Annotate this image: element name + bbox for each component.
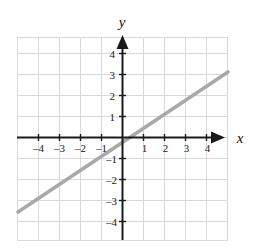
- y-tick-label-1: 1: [110, 111, 116, 123]
- y-tick-label-minus3: –3: [105, 195, 118, 207]
- x-tick-label-3: 3: [184, 142, 190, 154]
- coordinate-plane-figure: –4 –3 –2 –1 1 2 3 4 4 3 2 1 –1 –2 –3 –4 …: [0, 0, 257, 251]
- x-tick-label-minus3: –3: [53, 142, 66, 154]
- x-tick-label-minus4: –4: [32, 142, 45, 154]
- x-tick-label-2: 2: [163, 142, 169, 154]
- y-tick-label-2: 2: [110, 90, 116, 102]
- y-tick-label-minus1: –1: [105, 153, 117, 165]
- graph-canvas: –4 –3 –2 –1 1 2 3 4 4 3 2 1 –1 –2 –3 –4 …: [0, 0, 257, 251]
- x-axis-label: x: [236, 130, 244, 146]
- x-tick-label-4: 4: [205, 142, 211, 154]
- y-tick-label-4: 4: [110, 48, 116, 60]
- y-axis-label: y: [117, 14, 126, 30]
- x-tick-label-minus2: –2: [74, 142, 86, 154]
- x-tick-label-1: 1: [142, 142, 148, 154]
- y-tick-label-minus2: –2: [105, 174, 117, 186]
- y-tick-label-3: 3: [110, 69, 116, 81]
- y-tick-label-minus4: –4: [105, 216, 118, 228]
